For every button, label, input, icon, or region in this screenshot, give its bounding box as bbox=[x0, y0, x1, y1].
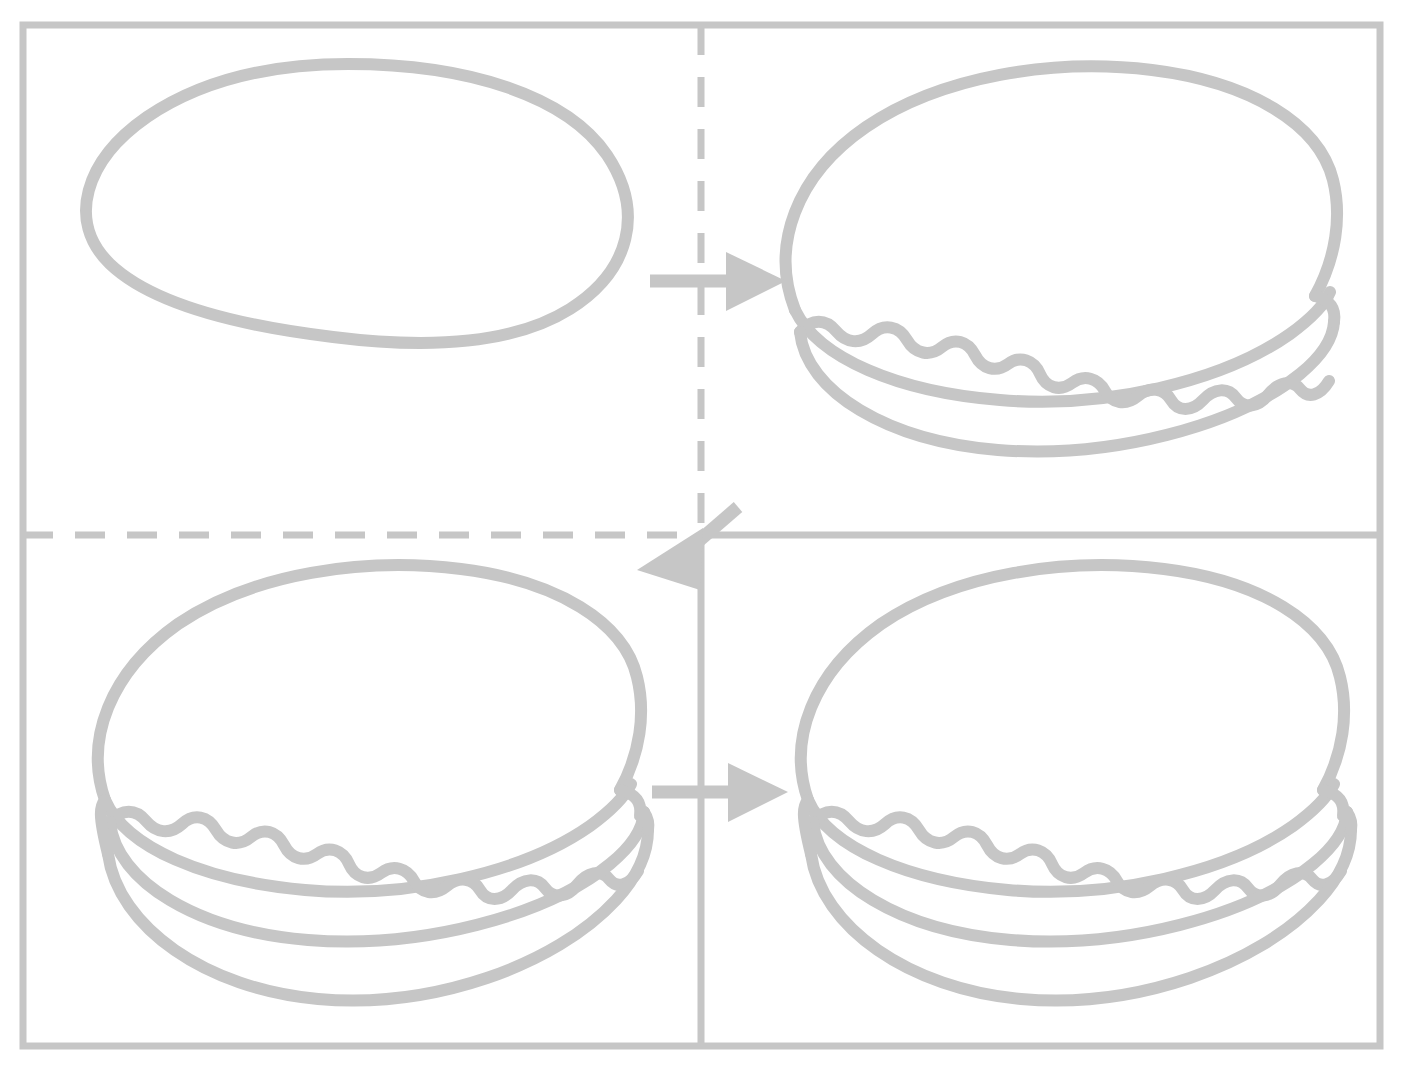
panel-top-left bbox=[86, 64, 628, 343]
right-edge-connector-icon bbox=[1323, 790, 1351, 830]
panel-bottom-right bbox=[801, 565, 1351, 1000]
arrow-head-right-icon bbox=[726, 252, 786, 311]
arrow-head-right-icon bbox=[728, 763, 788, 822]
left-edge-connector-icon bbox=[101, 800, 108, 854]
arrow-step3-to-step4 bbox=[652, 763, 788, 822]
bun-dome-icon bbox=[98, 565, 641, 800]
bun-dome-icon bbox=[801, 565, 1344, 800]
panel-top-right bbox=[786, 66, 1337, 451]
bun-outline-icon bbox=[86, 64, 628, 343]
bun-dome-icon bbox=[786, 66, 1337, 310]
arrow-step1-to-step2 bbox=[650, 252, 786, 311]
left-edge-connector-icon bbox=[804, 800, 811, 854]
right-edge-connector-icon bbox=[620, 790, 648, 830]
diagram-svg bbox=[0, 0, 1403, 1071]
panel-bottom-left bbox=[98, 565, 648, 1000]
arrow-step2-to-step3 bbox=[637, 507, 738, 590]
diagram-canvas bbox=[0, 0, 1403, 1071]
